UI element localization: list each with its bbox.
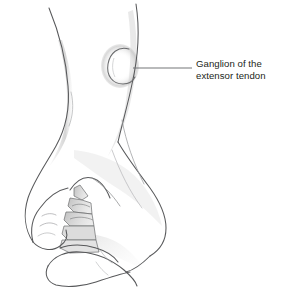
callout-label-line-1: Ganglion of the [196,58,282,70]
ganglion-illustration-figure: Ganglion of the extensor tendon [0,0,282,290]
drawing-canvas [0,0,282,290]
callout-label: Ganglion of the extensor tendon [196,58,282,81]
ganglion-shadow [101,44,139,88]
callout-label-line-2: extensor tendon [196,70,282,82]
hand-wrist-line-drawing [0,0,282,290]
